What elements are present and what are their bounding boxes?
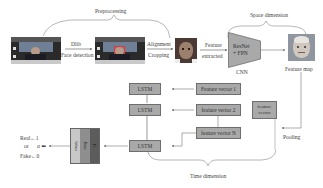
extracted-label: extracted xyxy=(202,53,223,60)
feature-vector-n: feature vector N xyxy=(196,127,241,139)
feature-map-image xyxy=(288,34,315,61)
time-dimension-title: Time dimension xyxy=(190,173,226,180)
video-frame-original xyxy=(11,37,61,64)
lstm-cell-n: LSTM xyxy=(129,140,161,152)
feature-label: Feature xyxy=(205,42,222,49)
feature-vector-2: feature vector 2 xyxy=(196,104,241,116)
fake-label: Fake←0 xyxy=(20,153,39,160)
preprocessing-title: Preprocessing xyxy=(95,8,126,15)
feature-map-label: Feature map xyxy=(285,66,313,73)
cropped-face xyxy=(175,38,197,63)
cnn-label: CNN xyxy=(236,69,248,76)
classifier-stack: Softmax Dense FC xyxy=(70,128,100,164)
dlib-label: Dlib xyxy=(71,41,81,48)
pooling-label: Pooling xyxy=(283,134,300,141)
pooled-feature-vector: feature vector xyxy=(252,101,277,119)
connectors xyxy=(0,0,323,188)
lstm-cell-2: LSTM xyxy=(129,104,161,116)
video-frame-detected xyxy=(95,37,145,64)
cnn-fpn-label: + FPN xyxy=(233,50,248,57)
fc-layer: FC xyxy=(90,129,99,163)
output-symbol: α ⬅ xyxy=(37,143,46,150)
feature-vector-1: Feature vector 1 xyxy=(196,83,241,95)
space-dimension-title: Space dimension xyxy=(250,12,288,19)
or-label: or xyxy=(24,143,29,150)
dense-layer: Dense xyxy=(80,129,89,163)
lstm-cell-1: LSTM xyxy=(129,83,161,95)
cnn-resnet-label: ResNet xyxy=(233,43,249,50)
alignment-label: Alignment xyxy=(147,41,171,48)
softmax-layer: Softmax xyxy=(71,129,80,163)
real-label: Real←1 xyxy=(20,135,39,142)
face-detection-label: Face detection xyxy=(61,52,93,59)
cropping-label: Cropping xyxy=(148,52,169,59)
